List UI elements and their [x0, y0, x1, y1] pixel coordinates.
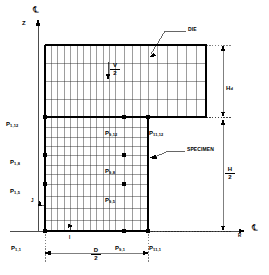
node-dot-p1-5	[43, 182, 47, 186]
specimen-label: SPECIMEN	[187, 147, 214, 152]
specimen-height-label: H 2	[225, 166, 235, 180]
specimen-leader-arrowhead	[149, 155, 157, 160]
diameter-numerator: D	[91, 247, 101, 253]
node-label-p9-8: P9,8	[105, 160, 115, 176]
velocity-numerator: V	[110, 62, 120, 68]
h2-arrow-up	[221, 118, 225, 125]
node-label-subscript: 1,5	[14, 190, 20, 195]
specimen-mesh-group	[45, 117, 148, 231]
specimen-height-denominator: 2	[225, 174, 235, 180]
die-label: DIE	[188, 27, 197, 32]
node-label-p9-5: P9,5	[105, 189, 115, 205]
die-mesh-group	[45, 45, 206, 117]
node-label-p11-12: P11,12	[149, 122, 163, 138]
z-axis-arrowhead	[36, 19, 41, 26]
node-dot-p1-8	[43, 153, 47, 157]
z-axis-label: Z	[22, 20, 26, 26]
index-j-label: J	[31, 199, 34, 204]
node-label-p11-1: P11,1	[149, 237, 161, 253]
node-dot-p11-1	[146, 229, 150, 233]
node-label-subscript: 9,1	[119, 247, 125, 252]
figure-canvas: ℄ Z R ℄ DIE SPECIMEN V 2 Hd H 2 D 2 I J …	[0, 0, 269, 275]
centerline-symbol-right: ℄	[252, 224, 258, 233]
node-label-p9-1: P9,1	[115, 237, 125, 253]
velocity-denominator: 2	[110, 70, 120, 76]
node-dot-p9-8	[122, 153, 126, 157]
diameter-half-label: D 2	[91, 247, 101, 261]
die-height-label: Hd	[226, 76, 233, 94]
index-arrow-group	[38, 200, 74, 231]
centerline-symbol-top: ℄	[33, 6, 39, 15]
node-dot-p9-5	[122, 182, 126, 186]
node-dot-p9-12	[122, 115, 126, 119]
specimen-leader-line	[155, 151, 185, 157]
node-dot-p11-12	[146, 115, 150, 119]
index-i-label: I	[69, 236, 70, 241]
node-label-subscript: 9,12	[109, 132, 117, 137]
specimen-leader-group	[149, 151, 185, 159]
node-label-subscript: 11,12	[153, 132, 163, 137]
node-label-subscript: 9,8	[109, 170, 115, 175]
node-label-subscript: 9,5	[109, 199, 115, 204]
diagram-svg	[0, 0, 269, 275]
diameter-denominator: 2	[91, 255, 101, 261]
node-label-p9-12: P9,12	[105, 122, 117, 138]
index-j-arrowhead	[38, 200, 42, 206]
r-axis-label: R	[238, 234, 241, 239]
velocity-half-label: V 2	[110, 62, 120, 76]
node-label-p1-5: P1,5	[10, 180, 20, 196]
node-label-p1-12: P1,12	[6, 113, 18, 129]
node-dot-p1-1	[43, 229, 47, 233]
node-label-subscript: 1,1	[15, 247, 21, 252]
node-label-p1-8: P1,8	[10, 151, 20, 167]
die-leader-line	[151, 31, 186, 54]
die-leader-arrowhead	[149, 53, 156, 57]
node-label-subscript: 11,1	[153, 247, 161, 252]
node-label-subscript: 1,12	[10, 123, 18, 128]
node-label-p1-1: P1,1	[11, 237, 21, 253]
node-dot-p1-12	[43, 115, 47, 119]
node-dot-p9-1	[122, 229, 126, 233]
die-height-subscript: d	[230, 86, 233, 91]
mesh-outline-group	[45, 45, 206, 231]
node-label-subscript: 1,8	[14, 161, 20, 166]
specimen-height-numerator: H	[225, 166, 235, 172]
